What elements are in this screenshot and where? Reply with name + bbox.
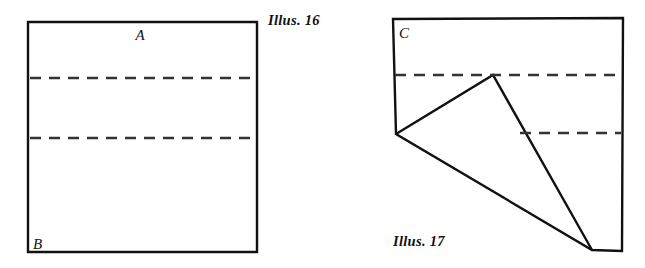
- caption-illus-16: Illus. 16: [267, 12, 320, 28]
- label-b: B: [33, 236, 42, 252]
- illustration-canvas: A B Illus. 16 C Illus. 17: [0, 0, 645, 268]
- caption-illus-17: Illus. 17: [392, 233, 445, 249]
- figure-illus-16: A B Illus. 16: [28, 12, 320, 252]
- label-c: C: [399, 25, 410, 41]
- figure-illus-17: C Illus. 17: [392, 18, 623, 251]
- label-a: A: [134, 27, 145, 43]
- folded-sheet-outline: [393, 18, 623, 251]
